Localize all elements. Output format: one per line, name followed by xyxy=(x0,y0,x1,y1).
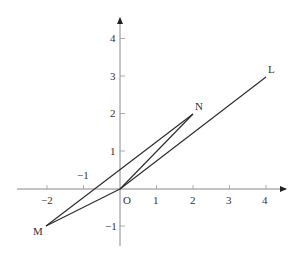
y-tick-label: 2 xyxy=(110,107,116,119)
x-tick-label: −2 xyxy=(41,194,53,206)
x-tick-label: −1 xyxy=(77,169,89,181)
coordinate-diagram: −2 −1 1 2 3 4 4 3 2 1 −1 N L M O xyxy=(0,0,300,255)
x-ticks xyxy=(47,185,266,189)
origin-label: O xyxy=(123,194,131,206)
point-label-L: L xyxy=(268,63,275,75)
segment-OL xyxy=(120,77,266,189)
x-tick-label: 1 xyxy=(153,194,159,206)
y-tick-label: −1 xyxy=(105,220,117,232)
segment-ON xyxy=(120,114,193,189)
y-tick-label: 3 xyxy=(110,70,116,82)
point-label-M: M xyxy=(33,225,43,237)
x-tick-label: 3 xyxy=(226,194,232,206)
x-tick-label: 2 xyxy=(190,194,196,206)
y-tick-label: 4 xyxy=(110,32,116,44)
point-label-N: N xyxy=(195,100,203,112)
x-tick-label: 4 xyxy=(262,194,268,206)
y-tick-label: 1 xyxy=(110,145,116,157)
